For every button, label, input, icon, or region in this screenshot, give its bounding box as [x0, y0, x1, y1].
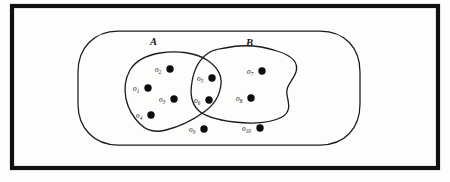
element-points-group: o1o2o3o4o5o6o7o8o9o10 [133, 65, 266, 135]
point-dot-o2 [166, 65, 173, 72]
point-dot-o1 [144, 84, 151, 91]
point-dot-o3 [170, 95, 177, 102]
set-label-a: A [149, 36, 157, 47]
point-label-o4: o4 [136, 111, 143, 121]
point-label-o2: o2 [155, 65, 162, 75]
point-label-o1: o1 [133, 84, 139, 94]
point-label-o9: o9 [189, 125, 196, 135]
point-dot-o7 [258, 67, 265, 74]
figure-border-frame [12, 6, 438, 168]
set-label-b: B [245, 37, 253, 48]
set-b-outline [191, 46, 296, 123]
point-label-o10: o10 [242, 124, 251, 134]
point-dot-o6 [205, 96, 212, 103]
point-dot-o8 [247, 94, 254, 101]
point-dot-o10 [256, 124, 263, 131]
point-label-o7: o7 [247, 67, 254, 77]
point-label-o6: o6 [194, 96, 201, 106]
point-dot-o5 [208, 74, 215, 81]
point-label-o3: o3 [159, 95, 166, 105]
universal-set-outline [78, 31, 360, 145]
point-label-o5: o5 [197, 74, 204, 84]
venn-diagram-figure: o1o2o3o4o5o6o7o8o9o10 A B [0, 0, 450, 182]
point-dot-o9 [200, 125, 207, 132]
point-label-o8: o8 [236, 94, 243, 104]
point-dot-o4 [147, 111, 154, 118]
